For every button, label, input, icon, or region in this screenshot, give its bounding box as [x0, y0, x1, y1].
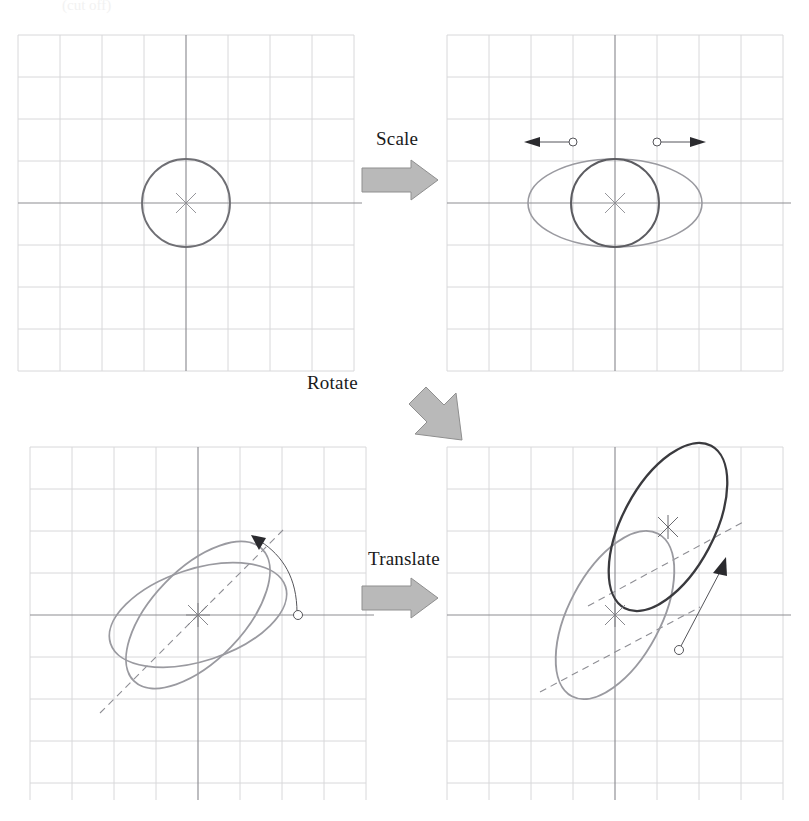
arrow-head-left: [524, 137, 540, 147]
scale-handle-right[interactable]: [653, 137, 706, 147]
original-panel-canvas: [0, 0, 410, 400]
pre-rotation-ellipse: [96, 543, 299, 687]
translation-handle[interactable]: [675, 557, 728, 655]
grid-axis-lines: [447, 35, 791, 371]
scale-handle-left[interactable]: [524, 137, 577, 147]
handle-dot: [675, 646, 684, 655]
source-ellipse: [531, 512, 699, 718]
center-marker: [186, 603, 210, 627]
panel-original-circle: [0, 0, 410, 400]
translated-axis-dashed: [588, 521, 745, 606]
arrow-head-right: [690, 137, 706, 147]
handle-dot: [569, 138, 577, 146]
arrow-head-rotate: [251, 535, 266, 550]
source-axis-dashed: [540, 607, 700, 692]
scaled-ellipse: [528, 159, 702, 247]
step-label-translate: Translate: [368, 548, 440, 570]
rotate-block-arrow-icon: [409, 387, 462, 440]
grid-axis-lines: [18, 35, 362, 371]
grid-minor-lines: [447, 35, 783, 371]
center-marker-source: [605, 603, 625, 627]
center-marker: [605, 193, 625, 213]
grid-axis-lines: [30, 447, 374, 800]
arrow-head-translate: [713, 557, 727, 576]
figure-root: (cut off): [0, 0, 809, 821]
rotation-handle[interactable]: [251, 535, 303, 620]
grid-minor-lines: [447, 447, 783, 800]
source-circle: [571, 159, 659, 247]
rotated-ellipse: [101, 517, 295, 713]
rotation-axis-dashed: [100, 530, 283, 713]
translated-ellipse: [584, 424, 752, 630]
grid-axis-lines: [447, 447, 791, 800]
handle-dot: [294, 611, 303, 620]
grid-minor-lines: [30, 447, 366, 800]
translate-block-arrow-icon: [362, 578, 438, 618]
handle-dot: [653, 138, 661, 146]
center-marker-translated: [658, 515, 678, 539]
